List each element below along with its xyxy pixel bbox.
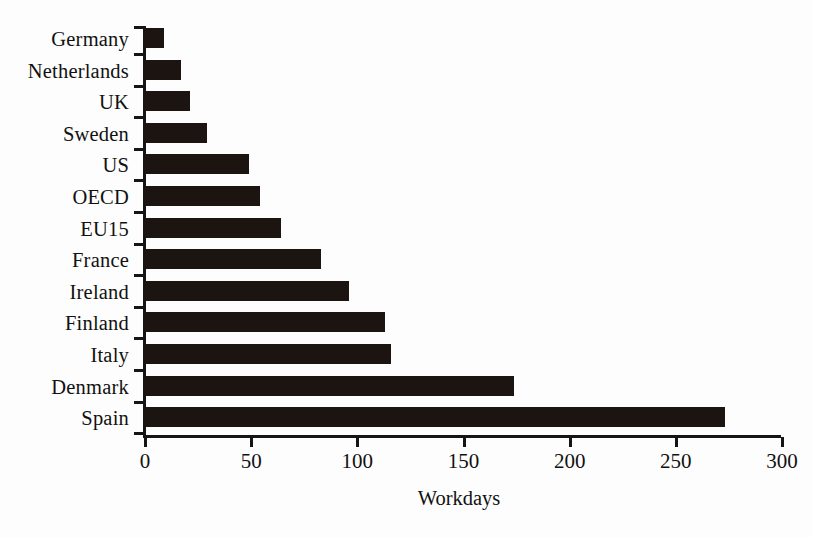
- category-label-text: Italy: [3, 345, 129, 365]
- category-label-text: EU15: [3, 219, 129, 239]
- x-axis-tick: [675, 437, 678, 447]
- x-axis-tick: [569, 437, 572, 447]
- category-label-text: Germany: [3, 29, 129, 49]
- plot-area: GermanyNetherlandsUKSwedenUSOECDEU15Fran…: [0, 0, 813, 537]
- y-axis-tick: [134, 179, 144, 182]
- x-axis-tick-label: 100: [312, 449, 402, 474]
- y-axis-tick: [134, 211, 144, 214]
- category-label-text: Spain: [3, 408, 129, 428]
- category-label-text: Ireland: [3, 282, 129, 302]
- bar: [145, 91, 190, 111]
- bar: [145, 186, 260, 206]
- bar: [145, 407, 725, 427]
- category-label-text: UK: [3, 92, 129, 112]
- y-axis-tick: [134, 337, 144, 340]
- bar: [145, 249, 321, 269]
- y-axis-tick: [134, 148, 144, 151]
- x-axis-tick-label: 300: [737, 449, 813, 474]
- x-axis-tick-label: 0: [100, 449, 190, 474]
- y-axis-tick: [134, 432, 144, 435]
- bar: [145, 154, 249, 174]
- bar: [145, 123, 207, 143]
- x-axis-tick-label: 200: [525, 449, 615, 474]
- category-label-text: OECD: [3, 187, 129, 207]
- bar: [145, 376, 514, 396]
- x-axis-title: Workdays: [0, 487, 813, 510]
- category-label-text: Sweden: [3, 124, 129, 144]
- bar: [145, 281, 349, 301]
- category-label-text: US: [3, 155, 129, 175]
- y-axis-tick: [134, 401, 144, 404]
- bar: [145, 218, 281, 238]
- y-axis-tick: [134, 53, 144, 56]
- y-axis-tick: [134, 116, 144, 119]
- x-axis-tick-label: 50: [206, 449, 296, 474]
- x-axis-tick: [144, 437, 147, 447]
- category-label-text: Finland: [3, 313, 129, 333]
- x-axis-tick-label: 250: [631, 449, 721, 474]
- y-axis-tick: [134, 306, 144, 309]
- y-axis-tick: [134, 85, 144, 88]
- x-axis-tick: [356, 437, 359, 447]
- category-label-text: Netherlands: [3, 61, 129, 81]
- x-axis-tick: [463, 437, 466, 447]
- x-axis-tick: [250, 437, 253, 447]
- bar: [145, 60, 181, 80]
- y-axis-tick: [134, 243, 144, 246]
- bar-chart: GermanyNetherlandsUKSwedenUSOECDEU15Fran…: [0, 0, 813, 537]
- y-axis-tick: [134, 26, 144, 29]
- bar: [145, 312, 385, 332]
- x-axis-title-text: Workdays: [418, 487, 501, 510]
- category-label-text: France: [3, 250, 129, 270]
- category-label-text: Denmark: [3, 377, 129, 397]
- bar: [145, 344, 391, 364]
- y-axis-tick: [134, 369, 144, 372]
- y-axis-tick: [134, 274, 144, 277]
- x-axis-tick: [781, 437, 784, 447]
- bar: [145, 28, 164, 48]
- x-axis-tick-label: 150: [419, 449, 509, 474]
